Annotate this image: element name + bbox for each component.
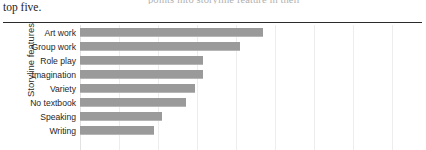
y-axis-tick-label: Art work: [18, 29, 76, 38]
document-text-block: points into storyline feature in their t…: [0, 0, 426, 22]
bar-art-work: [80, 28, 263, 36]
bar-no-textbook: [80, 98, 186, 106]
y-axis-tick-label: Writing: [18, 127, 76, 136]
horizontal-divider: [3, 22, 422, 23]
plot-area: [80, 25, 426, 150]
gridline: [275, 25, 276, 150]
y-axis-tick-label: Imagination: [18, 71, 76, 80]
y-axis-tick-label: Variety: [18, 85, 76, 94]
bar-chart-figure: Storyline features Art work Group work R…: [0, 25, 426, 150]
bar-variety: [80, 84, 195, 92]
bar-group-work: [80, 42, 240, 50]
bar-imagination: [80, 70, 203, 78]
gridline: [314, 25, 315, 150]
y-axis-tick-label: Speaking: [18, 113, 76, 122]
clipped-text-line: points into storyline feature in their: [148, 0, 426, 4]
y-axis-tick-label: No textbook: [18, 99, 76, 108]
y-axis-tick-labels: Art work Group work Role play Imaginatio…: [18, 25, 76, 150]
bar-writing: [80, 126, 154, 134]
bar-speaking: [80, 112, 162, 120]
gridline: [353, 25, 354, 150]
gridline: [392, 25, 393, 150]
bar-role-play: [80, 56, 203, 64]
y-axis-tick-label: Role play: [18, 57, 76, 66]
y-axis-tick-label: Group work: [18, 43, 76, 52]
